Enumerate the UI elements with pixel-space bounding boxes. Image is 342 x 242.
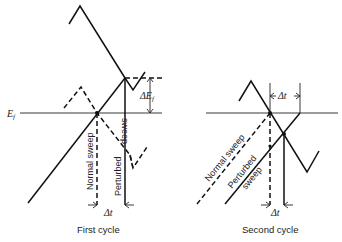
delta-ef-label: ΔEf	[139, 90, 155, 103]
sweep-diagram: Ef ΔEf Normal sweep Perturbed sweep Δt	[0, 0, 342, 242]
delta-t-label: Δt	[103, 207, 113, 218]
perturbed-small-zigzag	[125, 72, 145, 90]
intersection-dot-3	[268, 144, 271, 147]
sweep-label: sweep	[120, 118, 130, 144]
delta-t-top-label: Δt	[277, 90, 287, 101]
normal-sweep-diagonal	[197, 113, 270, 204]
perturbed-waveform-descent	[69, 6, 125, 78]
normal-sweep-label: Normal sweep	[85, 132, 95, 190]
first-cycle-panel: Ef ΔEf Normal sweep Perturbed sweep Δt	[6, 6, 162, 235]
first-cycle-caption: First cycle	[77, 224, 120, 235]
second-cycle-caption: Second cycle	[242, 224, 299, 235]
delta-t-bottom-label: Δt	[270, 207, 280, 218]
ef-label: Ef	[6, 108, 16, 121]
normal-waveform-dashed	[64, 87, 147, 168]
intersection-dot-2	[282, 132, 286, 136]
normal-trough	[130, 155, 133, 168]
normal-rising-line	[28, 78, 125, 203]
intersection-dot	[95, 111, 99, 115]
perturbed-label: Perturbed	[113, 156, 123, 196]
perturbed-sweep-diagonal	[225, 113, 300, 204]
second-cycle-panel: Δt Normal sweep Perturbed sweep Δt Secon…	[197, 81, 338, 235]
